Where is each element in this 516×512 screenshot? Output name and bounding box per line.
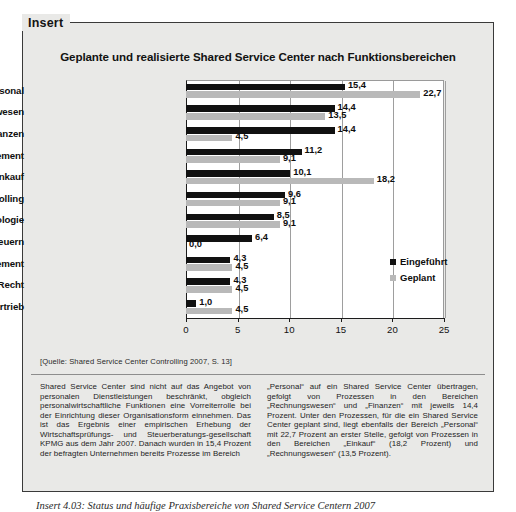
- bar-value-label: 0,0: [189, 239, 202, 249]
- bar-value-label: 9,1: [283, 196, 296, 206]
- bar-introduced: [186, 170, 290, 177]
- category-label: Informationstechnologie: [0, 214, 24, 225]
- x-axis-tick-label: 10: [284, 324, 295, 335]
- bar-planned: [186, 135, 232, 142]
- x-axis-tick: [186, 318, 187, 322]
- legend-swatch-icon-introduced: [390, 259, 396, 265]
- x-axis-tick-label: 5: [235, 324, 240, 335]
- bar-planned: [186, 156, 280, 163]
- x-axis-tick: [341, 318, 342, 322]
- category-label: Facility Management: [0, 258, 24, 269]
- category-label: Marketing/Vertrieb: [0, 301, 24, 312]
- bar-introduced: [186, 257, 230, 264]
- bar-value-label: 15,4: [348, 80, 366, 90]
- legend-item-introduced: Eingeführt: [390, 256, 448, 267]
- x-axis-tick-label: 15: [335, 324, 346, 335]
- body-column-right: „Personal“ auf ein Shared Service Center…: [267, 382, 478, 458]
- body-column-left: Shared Service Center sind nicht auf das…: [40, 382, 251, 458]
- legend-item-planned: Geplant: [390, 272, 448, 283]
- bar-value-label: 6,4: [255, 232, 268, 242]
- chart-panel: Geplante und realisierte Shared Service …: [30, 28, 486, 350]
- legend-swatch-icon-planned: [390, 275, 396, 281]
- category-label: Finanzen: [0, 128, 24, 139]
- chart-source-note: [Quelle: Shared Service Center Controlli…: [40, 357, 232, 366]
- category-label: Rechnungswesen: [0, 106, 24, 117]
- x-axis-tick-label: 25: [439, 324, 450, 335]
- bar-introduced: [186, 192, 285, 199]
- chart-title: Geplante und realisierte Shared Service …: [30, 50, 486, 63]
- x-axis-tick-label: 20: [387, 324, 398, 335]
- x-axis-tick: [289, 318, 290, 322]
- category-label: Recht: [0, 279, 24, 290]
- bar-value-label: 4,5: [235, 304, 248, 314]
- bar-planned: [186, 91, 420, 98]
- bar-planned: [186, 178, 374, 185]
- bar-value-label: 1,0: [199, 297, 212, 307]
- bar-planned: [186, 286, 232, 293]
- bar-introduced: [186, 105, 335, 112]
- bar-value-label: 4,5: [235, 131, 248, 141]
- bar-value-label: 9,1: [283, 153, 296, 163]
- bar-value-label: 4,5: [235, 283, 248, 293]
- bar-planned: [186, 264, 232, 271]
- x-axis-tick: [238, 318, 239, 322]
- legend-label-planned: Geplant: [400, 272, 435, 283]
- bar-value-label: 4,5: [235, 261, 248, 271]
- bar-value-label: 13,5: [328, 110, 346, 120]
- bar-planned: [186, 200, 280, 207]
- category-label: Einkauf: [0, 171, 24, 182]
- bar-planned: [186, 221, 280, 228]
- bar-value-label: 9,1: [283, 218, 296, 228]
- bar-introduced: [186, 214, 274, 221]
- bar-value-label: 10,1: [293, 167, 311, 177]
- body-text: Shared Service Center sind nicht auf das…: [40, 382, 478, 458]
- bar-value-label: 18,2: [377, 174, 395, 184]
- bar-introduced: [186, 127, 335, 134]
- page-root: Insert Geplante und realisierte Shared S…: [0, 0, 516, 512]
- bar-introduced: [186, 300, 196, 307]
- figure-caption: Insert 4.03: Status und häufige Praxisbe…: [36, 500, 506, 511]
- bar-value-label: 14,4: [338, 124, 356, 134]
- bar-value-label: 11,2: [305, 145, 323, 155]
- bar-value-label: 22,7: [423, 88, 441, 98]
- x-axis-tick-label: 0: [183, 324, 188, 335]
- category-label: Controlling: [0, 193, 24, 204]
- bar-planned: [186, 113, 325, 120]
- x-axis-line: [186, 318, 445, 319]
- bar-introduced: [186, 278, 230, 285]
- category-label: Reisemanagement: [0, 150, 24, 161]
- x-axis-tick: [444, 318, 445, 322]
- category-label: Steuern: [0, 236, 24, 247]
- legend-label-introduced: Eingeführt: [400, 256, 448, 267]
- chart-legend: Eingeführt Geplant: [390, 256, 448, 288]
- section-divider: [31, 374, 485, 375]
- bar-planned: [186, 308, 232, 315]
- x-axis-tick: [392, 318, 393, 322]
- bar-introduced: [186, 84, 345, 91]
- category-label: Personal: [0, 85, 24, 96]
